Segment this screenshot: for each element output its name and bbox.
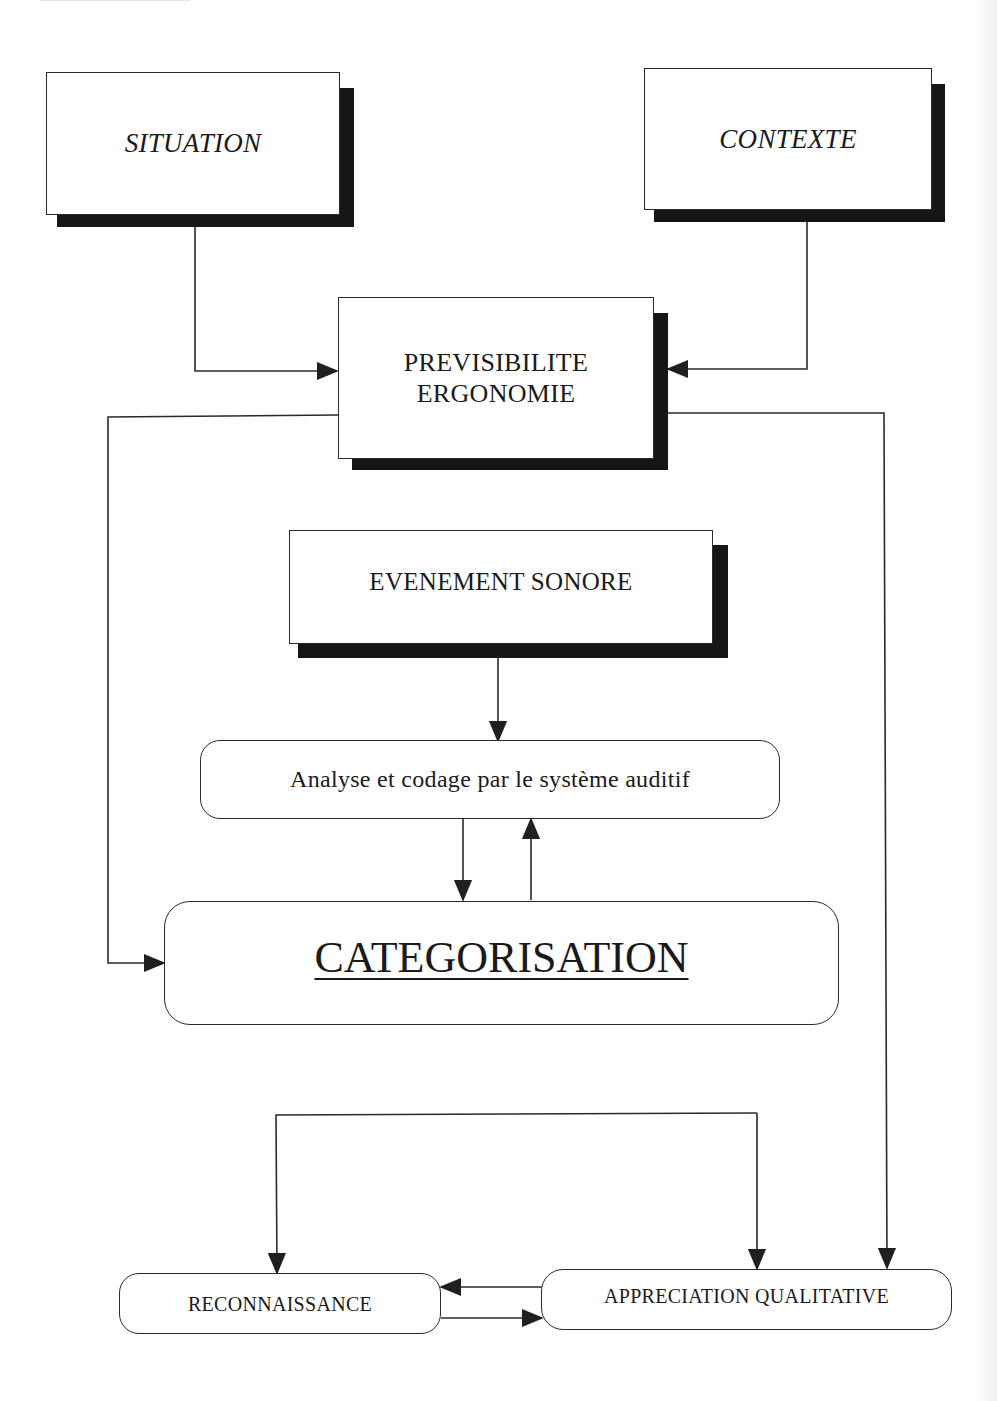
previsibilite-node[interactable]: PREVISIBILITE ERGONOMIE <box>338 297 654 459</box>
situation-label: SITUATION <box>125 127 262 159</box>
categorisation-node[interactable]: CATEGORISATION <box>164 901 839 1025</box>
edge-situation-to-previsibilite <box>195 226 337 371</box>
situation-node[interactable]: SITUATION <box>46 72 340 215</box>
reconnaissance-label: RECONNAISSANCE <box>188 1292 372 1316</box>
appreciation-label: APPRECIATION QUALITATIVE <box>604 1284 889 1308</box>
appreciation-node[interactable]: APPRECIATION QUALITATIVE <box>541 1269 952 1330</box>
evenement-label: EVENEMENT SONORE <box>369 567 632 597</box>
contexte-node[interactable]: CONTEXTE <box>644 68 932 210</box>
previsibilite-label-line2: ERGONOMIE <box>417 378 576 409</box>
categorisation-label: CATEGORISATION <box>315 932 689 985</box>
contexte-label: CONTEXTE <box>719 123 856 155</box>
analyse-node[interactable]: Analyse et codage par le système auditif <box>200 740 780 819</box>
reconnaissance-node[interactable]: RECONNAISSANCE <box>119 1273 441 1334</box>
analyse-label: Analyse et codage par le système auditif <box>290 765 690 794</box>
edge-previsibilite-to-categorisation <box>108 415 338 963</box>
previsibilite-label-line1: PREVISIBILITE <box>404 347 588 378</box>
edge-junction-to-reconnaissance <box>276 1113 757 1273</box>
evenement-node[interactable]: EVENEMENT SONORE <box>289 530 713 644</box>
edge-contexte-to-previsibilite <box>668 220 807 369</box>
